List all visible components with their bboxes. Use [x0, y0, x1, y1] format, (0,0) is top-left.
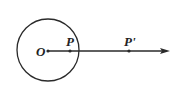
point-O — [46, 49, 49, 52]
label-P: P — [66, 34, 75, 49]
point-P-prime — [127, 49, 130, 52]
inversion-diagram: O P P' — [0, 0, 180, 104]
label-P-prime: P' — [124, 34, 136, 49]
point-P — [68, 49, 71, 52]
label-O: O — [36, 44, 46, 59]
